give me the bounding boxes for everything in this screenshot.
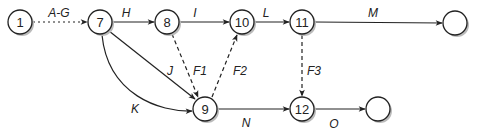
edge-label-i: I: [193, 6, 197, 20]
edge-label-f2: F2: [233, 64, 247, 78]
edge-label-n: N: [242, 116, 251, 130]
svg-text:7: 7: [96, 15, 103, 30]
node-1: 1: [8, 10, 34, 36]
edge-11-end: [315, 22, 442, 23]
edge-label-l: L: [263, 6, 270, 20]
edge-label-j: J: [166, 64, 174, 78]
svg-text:11: 11: [295, 15, 309, 30]
node-end-top: [443, 11, 469, 37]
node-end-bottom: [366, 97, 392, 123]
node-7: 7: [88, 10, 114, 36]
edge-label-m: M: [368, 6, 378, 20]
node-12: 12: [290, 97, 316, 123]
svg-text:10: 10: [235, 15, 249, 30]
edge-label-o: O: [329, 117, 338, 131]
svg-text:12: 12: [295, 102, 309, 117]
node-8: 8: [155, 10, 181, 36]
edge-7-9-J: [109, 31, 195, 99]
edge-label-k: K: [131, 102, 140, 116]
edge-label-f1: F1: [193, 64, 207, 78]
node-9: 9: [193, 97, 219, 123]
node-11: 11: [290, 10, 316, 36]
edge-label-h: H: [122, 6, 131, 20]
svg-text:8: 8: [163, 15, 170, 30]
network-diagram: A-G H I L M J K F1 F2 F3 N O 1 7 8 10 11: [0, 0, 479, 134]
svg-text:1: 1: [16, 15, 23, 30]
edge-label-ag: A-G: [47, 6, 69, 20]
edge-label-f3: F3: [307, 64, 321, 78]
node-10: 10: [230, 10, 256, 36]
edge-7-9-K: [102, 35, 192, 111]
svg-text:9: 9: [201, 102, 208, 117]
